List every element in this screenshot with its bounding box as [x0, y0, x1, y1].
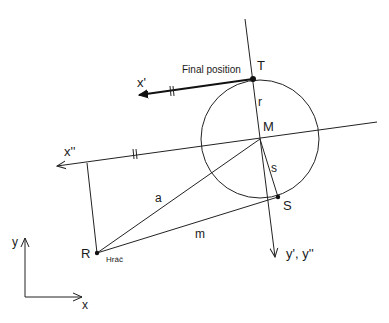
- label-final-position: Final position: [182, 64, 241, 75]
- label-s: s: [271, 161, 277, 175]
- parallel-tick: [133, 149, 134, 159]
- label-T: T: [257, 58, 265, 73]
- label-axis-x: x: [82, 298, 88, 312]
- geometry-diagram: Final position T x' r M x'' s S a m R Hr…: [0, 0, 389, 323]
- label-S: S: [283, 198, 292, 213]
- x-double-prime-axis-line: [57, 122, 377, 166]
- point-T: [250, 76, 256, 82]
- label-x-prime: x': [137, 75, 146, 90]
- label-M: M: [263, 119, 274, 134]
- parallel-tick: [136, 149, 137, 159]
- label-y-primes: y', y'': [286, 246, 314, 261]
- label-a: a: [155, 191, 162, 205]
- label-x-double-prime: x'': [64, 144, 75, 159]
- label-hrac: Hráč: [106, 255, 123, 264]
- x-prime-arrow: [139, 79, 253, 95]
- perpendicular-segment: [87, 163, 97, 253]
- point-S: [276, 195, 280, 199]
- label-m: m: [195, 227, 205, 241]
- segment-a: [97, 139, 260, 253]
- label-r: r: [258, 95, 262, 109]
- label-R: R: [81, 246, 90, 261]
- label-axis-y: y: [12, 235, 18, 249]
- parallel-tick: [173, 86, 174, 96]
- segment-m: [97, 197, 278, 253]
- point-R: [95, 251, 99, 255]
- parallel-tick: [170, 86, 171, 96]
